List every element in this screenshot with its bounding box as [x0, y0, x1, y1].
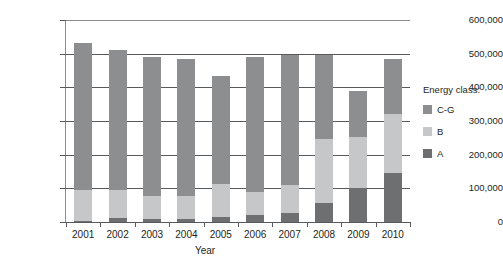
x-axis-tick-mark	[100, 222, 101, 227]
x-axis-tick-mark	[169, 222, 170, 227]
bar-segment-c-g[interactable]	[246, 57, 264, 192]
legend-items: C-GBA	[423, 103, 503, 159]
x-axis-tick-mark	[272, 222, 273, 227]
bar-segment-a[interactable]	[143, 219, 161, 222]
bar-segment-b[interactable]	[109, 190, 127, 218]
x-axis-tick-mark	[66, 222, 67, 227]
legend-item-a[interactable]: A	[423, 147, 503, 159]
y-axis-tick-label: 100,000	[445, 183, 503, 193]
bar-segment-a[interactable]	[384, 173, 402, 222]
bar-group[interactable]	[315, 20, 333, 222]
legend-swatch-icon	[423, 105, 432, 114]
y-axis-tick-label: 0	[445, 217, 503, 227]
bar-group[interactable]	[177, 20, 195, 222]
x-axis-tick-label: 2010	[373, 229, 413, 241]
y-axis-tick-label: 600,000	[445, 15, 503, 25]
y-axis-tick-label: 500,000	[445, 49, 503, 59]
legend-swatch-icon	[423, 149, 432, 158]
x-axis-tick-mark	[410, 222, 411, 227]
bar-segment-b[interactable]	[315, 139, 333, 203]
bar-segment-a[interactable]	[281, 213, 299, 222]
x-axis-tick-mark	[307, 222, 308, 227]
bar-group[interactable]	[212, 20, 230, 222]
bar-segment-a[interactable]	[349, 188, 367, 222]
bar-segment-c-g[interactable]	[74, 43, 92, 191]
x-axis-tick-mark	[135, 222, 136, 227]
bar-group[interactable]	[109, 20, 127, 222]
bar-segment-c-g[interactable]	[143, 57, 161, 196]
bar-group[interactable]	[349, 20, 367, 222]
bar-segment-b[interactable]	[177, 196, 195, 218]
bar-segment-c-g[interactable]	[349, 91, 367, 136]
stacked-bar-chart: 0100,000200,000300,000400,000500,000600,…	[0, 0, 503, 270]
legend-swatch-icon	[423, 127, 432, 136]
bar-segment-a[interactable]	[212, 217, 230, 222]
bar-segment-c-g[interactable]	[109, 50, 127, 190]
bar-segment-a[interactable]	[74, 221, 92, 222]
bar-segment-c-g[interactable]	[212, 76, 230, 183]
bar-group[interactable]	[143, 20, 161, 222]
legend: Energy class: C-GBA	[423, 84, 503, 169]
bars-container	[66, 20, 410, 222]
legend-item-c-g[interactable]: C-G	[423, 103, 503, 115]
bar-segment-b[interactable]	[143, 196, 161, 219]
x-axis-tick-mark	[376, 222, 377, 227]
bar-segment-a[interactable]	[177, 219, 195, 222]
legend-item-label: A	[437, 148, 443, 159]
bar-segment-b[interactable]	[349, 137, 367, 189]
bar-segment-c-g[interactable]	[315, 55, 333, 139]
bar-group[interactable]	[74, 20, 92, 222]
bar-segment-c-g[interactable]	[281, 55, 299, 186]
bar-segment-b[interactable]	[74, 190, 92, 221]
bar-segment-b[interactable]	[384, 114, 402, 173]
bar-segment-a[interactable]	[109, 218, 127, 222]
bar-segment-b[interactable]	[281, 185, 299, 213]
x-axis-tick-mark	[238, 222, 239, 227]
x-axis-tick-mark	[341, 222, 342, 227]
bar-segment-a[interactable]	[246, 215, 264, 222]
bar-segment-b[interactable]	[246, 192, 264, 216]
legend-title: Energy class:	[423, 84, 503, 96]
x-axis-tick-mark	[204, 222, 205, 227]
bar-segment-b[interactable]	[212, 184, 230, 218]
bar-segment-c-g[interactable]	[384, 59, 402, 114]
legend-item-b[interactable]: B	[423, 125, 503, 137]
bar-segment-c-g[interactable]	[177, 59, 195, 196]
legend-item-label: C-G	[437, 104, 454, 115]
x-axis-title: Year	[0, 245, 410, 256]
bar-group[interactable]	[281, 20, 299, 222]
bar-segment-a[interactable]	[315, 203, 333, 222]
bar-group[interactable]	[384, 20, 402, 222]
bar-group[interactable]	[246, 20, 264, 222]
legend-item-label: B	[437, 126, 443, 137]
